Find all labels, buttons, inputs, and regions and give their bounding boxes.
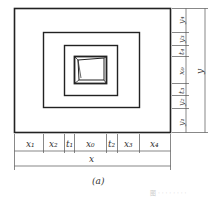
second-rect [44,33,140,108]
label-y2: y₂ [177,98,186,107]
inner-trapezoid [78,58,104,80]
faint-caption: 图 · · · · · · · · [150,189,187,197]
label-y4: y₄ [177,16,186,25]
label-t2: t₂ [108,139,116,149]
third-rect [65,46,118,96]
label-x2: x₂ [49,139,58,149]
label-t4: t₄ [177,49,186,55]
label-t3: t₃ [177,88,186,94]
nested-rectangles-diagram: x₁ x₂ t₁ x₀ t₂ x₃ x₄ x y₄ y₃ t₄ x₀ t₃ y₂… [0,0,224,197]
label-y1: y₁ [177,118,186,127]
label-x3: x₃ [124,139,133,149]
label-vx0: x₀ [177,66,186,75]
label-y-total: y [195,68,205,75]
outer-rect [15,9,171,133]
figure-caption: (a) [92,176,105,186]
label-x-total: x [89,154,94,164]
label-y3: y₃ [177,35,186,44]
label-x4: x₄ [150,139,159,149]
label-x0: x₀ [86,139,95,149]
label-t1: t₁ [66,139,73,149]
label-x1: x₁ [26,139,35,149]
